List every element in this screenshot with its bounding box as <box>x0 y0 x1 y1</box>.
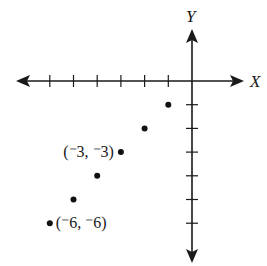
data-point <box>47 220 53 226</box>
data-point <box>142 125 148 131</box>
point-label: (⁻3, ⁻3) <box>63 143 114 161</box>
coordinate-plane: X Y (⁻3, ⁻3)(⁻6, ⁻6) <box>0 0 267 266</box>
y-axis-label: Y <box>186 7 197 26</box>
data-point <box>94 173 100 179</box>
data-point <box>165 102 171 108</box>
data-point <box>118 149 124 155</box>
axes: X Y <box>16 7 261 263</box>
data-point <box>71 197 77 203</box>
data-points <box>47 102 172 227</box>
point-labels: (⁻3, ⁻3)(⁻6, ⁻6) <box>56 143 114 232</box>
x-axis-label: X <box>249 72 261 91</box>
point-label: (⁻6, ⁻6) <box>56 214 107 232</box>
